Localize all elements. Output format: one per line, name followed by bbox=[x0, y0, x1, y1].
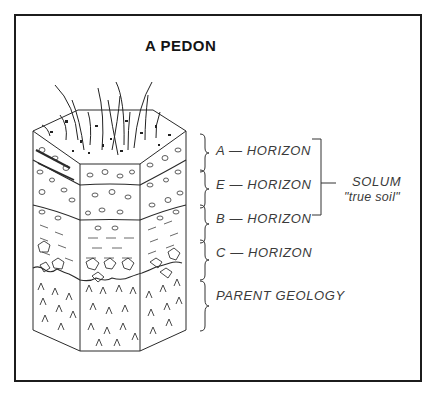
label-b-horizon: B — HORIZON bbox=[216, 211, 311, 226]
bedrock-texture bbox=[38, 279, 182, 346]
topsoil-specks bbox=[50, 120, 171, 154]
brace-parent-icon bbox=[200, 281, 209, 331]
label-solum: SOLUM bbox=[352, 174, 401, 189]
label-c-horizon: C — HORIZON bbox=[216, 245, 312, 260]
label-parent-geology: PARENT GEOLOGY bbox=[216, 288, 345, 303]
label-a-horizon: A — HORIZON bbox=[216, 143, 311, 158]
clay-texture bbox=[40, 221, 178, 261]
label-e-horizon: E — HORIZON bbox=[216, 177, 311, 192]
solum-bracket bbox=[312, 139, 336, 215]
pebble-texture bbox=[37, 148, 183, 231]
rock-fragment-texture bbox=[38, 241, 180, 282]
horizon-braces bbox=[200, 134, 209, 331]
brace-c-icon bbox=[200, 240, 209, 280]
label-true-soil: "true soil" bbox=[344, 190, 400, 204]
brace-b-icon bbox=[200, 205, 209, 243]
brace-e-icon bbox=[200, 170, 209, 208]
brace-a-icon bbox=[200, 134, 209, 172]
pedon-prism bbox=[33, 110, 186, 351]
horizon-boundaries bbox=[33, 150, 186, 281]
